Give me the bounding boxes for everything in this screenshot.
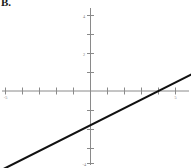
figure-container: B. -5 5 4 2 -4 [0,0,191,168]
y-tick-label-bottom: -4 [83,162,87,167]
panel-label: B. [1,0,11,8]
coordinate-plane-plot: -5 5 4 2 -4 [0,0,191,168]
y-tick-label-top: 4 [83,14,86,19]
x-tick-label-right: 5 [174,95,176,100]
x-tick-label-left: -5 [4,95,8,100]
y-tick-label-mid: 2 [83,52,85,57]
plotted-line-series [0,75,191,168]
